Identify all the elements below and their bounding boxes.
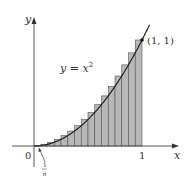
annotation-arrow-icon (39, 148, 42, 153)
curve-equation-lhs: y = x (59, 62, 89, 75)
upper-sum-rectangles (34, 40, 142, 146)
point-marker (140, 38, 144, 42)
curve-equation-exponent: 2 (89, 61, 93, 69)
point-label: (1, 1) (147, 35, 174, 46)
y-axis-label: y (24, 13, 32, 26)
fraction-numerator: 1 (43, 161, 47, 168)
fraction-denominator: n (43, 170, 47, 177)
tick-label-one: 1 (139, 150, 145, 161)
rectangle (129, 53, 136, 146)
x-axis-arrow-icon (172, 144, 179, 149)
rectangle (115, 76, 122, 146)
rectangle (135, 40, 142, 146)
riemann-sum-diagram: y x 0 1 (1, 1) y = x2 1 n (0, 0, 191, 178)
curve-equation-label: y = x2 (59, 61, 93, 75)
rectangle (122, 65, 129, 146)
y-axis-arrow-icon (32, 17, 37, 24)
rectangle (88, 112, 95, 146)
x-axis-label: x (174, 149, 181, 162)
origin-label: 0 (25, 150, 31, 161)
